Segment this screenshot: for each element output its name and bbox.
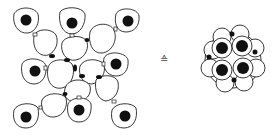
compact-aggregate — [201, 25, 265, 92]
corresponds-symbol: ≙ — [160, 54, 168, 65]
cell-diagram — [0, 0, 273, 138]
